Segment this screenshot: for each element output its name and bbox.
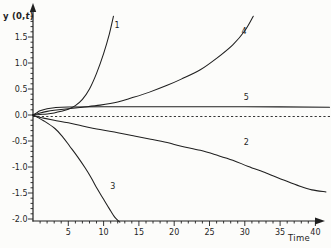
x-tick-label: 15 bbox=[134, 228, 144, 237]
y-tick-label: 1.5 bbox=[15, 33, 28, 42]
x-axis-arrow-icon bbox=[315, 218, 325, 225]
curve-2 bbox=[33, 115, 326, 192]
y-tick-label: 0.0 bbox=[15, 111, 28, 120]
curve-label-1: 1 bbox=[114, 21, 119, 30]
curve-label-2: 2 bbox=[244, 138, 249, 147]
chart-canvas: 1.51.00.50.0-0.5-1.0-1.5-2.0510152025303… bbox=[0, 0, 331, 248]
x-tick-label: 20 bbox=[169, 228, 179, 237]
y-tick-label: -1.5 bbox=[12, 189, 28, 198]
x-tick-label: 25 bbox=[204, 228, 214, 237]
curve-1 bbox=[33, 16, 113, 115]
y-axis-title: y (0,t) bbox=[3, 11, 34, 21]
y-tick-labels: 1.51.00.50.0-0.5-1.0-1.5-2.0 bbox=[12, 33, 28, 224]
x-tick-label: 40 bbox=[310, 228, 320, 237]
y-tick-label: -1.0 bbox=[12, 163, 28, 172]
y-tick-label: -2.0 bbox=[12, 215, 28, 224]
x-axis-title: Time bbox=[288, 233, 310, 243]
y-tick-label: 0.5 bbox=[15, 85, 28, 94]
y-ticks bbox=[28, 16, 33, 219]
curve-label-4: 4 bbox=[242, 27, 247, 36]
x-tick-labels: 510152025303540 bbox=[66, 228, 321, 237]
y-axis-title-suffix: ) bbox=[30, 11, 34, 21]
x-tick-label: 5 bbox=[66, 228, 71, 237]
y-tick-label: -0.5 bbox=[12, 137, 28, 146]
x-tick-label: 35 bbox=[275, 228, 285, 237]
curve-4 bbox=[33, 16, 253, 115]
curve-label-3: 3 bbox=[110, 182, 115, 191]
x-tick-label: 10 bbox=[99, 228, 109, 237]
x-ticks bbox=[40, 221, 315, 226]
figure: 1.51.00.50.0-0.5-1.0-1.5-2.0510152025303… bbox=[0, 0, 331, 248]
y-tick-label: 1.0 bbox=[15, 59, 28, 68]
x-tick-label: 30 bbox=[240, 228, 250, 237]
y-axis-title-mid: (0, bbox=[9, 11, 26, 21]
curve-label-5: 5 bbox=[244, 93, 249, 102]
